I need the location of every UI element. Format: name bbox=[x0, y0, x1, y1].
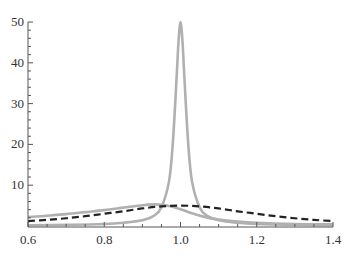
resonance-chart: 10203040500.60.81.01.21.4 bbox=[0, 0, 355, 256]
y-tick-label: 50 bbox=[11, 14, 24, 29]
series-broad-resonance bbox=[28, 204, 333, 224]
y-tick-label: 40 bbox=[11, 55, 24, 70]
y-tick-label: 20 bbox=[11, 136, 24, 151]
series-sharp-resonance bbox=[28, 22, 333, 225]
x-tick-label: 1.2 bbox=[249, 232, 265, 247]
y-tick-label: 10 bbox=[11, 177, 24, 192]
x-tick-label: 1.4 bbox=[325, 232, 342, 247]
axes: 10203040500.60.81.01.21.4 bbox=[11, 14, 342, 247]
plot-curves bbox=[28, 22, 333, 225]
x-tick-label: 0.8 bbox=[96, 232, 112, 247]
y-tick-label: 30 bbox=[11, 96, 24, 111]
x-tick-label: 1.0 bbox=[172, 232, 188, 247]
x-tick-label: 0.6 bbox=[20, 232, 37, 247]
